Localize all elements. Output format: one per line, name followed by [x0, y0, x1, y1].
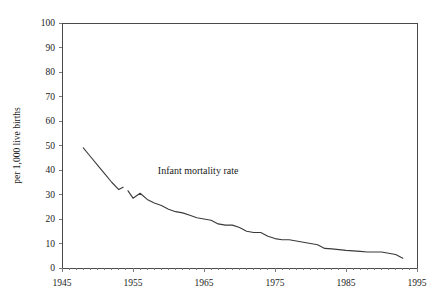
y-axis-title: per 1,000 live births — [12, 107, 22, 184]
x-tick-label: 1975 — [266, 278, 285, 288]
series-annotation-label: Infant mortality rate — [158, 165, 239, 176]
y-tick-label: 30 — [46, 190, 56, 200]
y-tick-label: 10 — [46, 239, 56, 249]
data-line-segment — [83, 148, 123, 190]
x-tick-label: 1955 — [124, 278, 143, 288]
infant-mortality-chart: 0102030405060708090100 19451955196519751… — [0, 0, 448, 303]
x-tick-label: 1985 — [337, 278, 356, 288]
data-line-segment — [128, 191, 403, 258]
plot-area-border — [62, 23, 417, 268]
y-axis-tick-labels: 0102030405060708090100 — [41, 18, 56, 273]
y-tick-label: 80 — [46, 67, 56, 77]
y-tick-label: 100 — [41, 18, 56, 28]
chart-canvas: 0102030405060708090100 19451955196519751… — [0, 0, 448, 303]
y-tick-label: 20 — [46, 214, 56, 224]
x-axis-tick-labels: 194519551965197519851995 — [53, 278, 427, 288]
data-series-group — [83, 148, 403, 258]
axes-group — [62, 23, 417, 268]
y-tick-label: 70 — [46, 92, 56, 102]
y-tick-label: 50 — [46, 141, 56, 151]
x-tick-label: 1965 — [195, 278, 214, 288]
y-tick-label: 0 — [50, 263, 55, 273]
y-tick-label: 90 — [46, 43, 56, 53]
x-tick-label: 1945 — [53, 278, 72, 288]
y-tick-label: 60 — [46, 116, 56, 126]
x-tick-label: 1995 — [408, 278, 427, 288]
y-tick-label: 40 — [46, 165, 56, 175]
